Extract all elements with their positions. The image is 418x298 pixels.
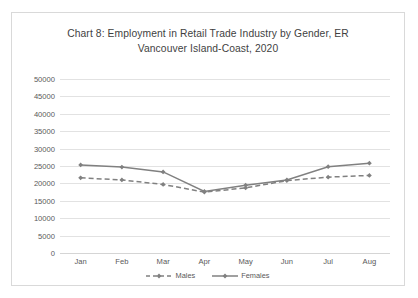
y-axis-tick-label: 35000: [34, 127, 55, 136]
x-axis-tick-label: Mar: [157, 257, 170, 266]
y-axis-tick-label: 0: [51, 249, 55, 258]
x-axis-tick-label: Apr: [198, 257, 210, 266]
data-point-marker: [119, 178, 124, 183]
y-axis-tick-label: 50000: [34, 75, 55, 84]
data-point-marker: [243, 183, 248, 188]
data-point-marker: [78, 175, 83, 180]
y-axis-tick-label: 5000: [38, 231, 55, 240]
chart-container: Chart 8: Employment in Retail Trade Indu…: [11, 12, 405, 286]
x-axis-tick-label: Aug: [363, 257, 377, 266]
x-axis-tick-label: May: [238, 257, 252, 266]
data-point-marker: [119, 165, 124, 170]
data-point-marker: [284, 178, 289, 183]
data-point-marker: [161, 170, 166, 175]
chart-title: Chart 8: Employment in Retail Trade Indu…: [12, 27, 404, 56]
y-axis-tick-label: 45000: [34, 92, 55, 101]
series-line-males: [81, 175, 370, 192]
chart-title-line-2: Vancouver Island-Coast, 2020: [12, 42, 404, 57]
legend-label: Males: [175, 271, 195, 280]
y-axis-tick-label: 10000: [34, 214, 55, 223]
data-point-marker: [367, 161, 372, 166]
gridline: [60, 253, 390, 254]
chart-legend: MalesFemales: [12, 271, 404, 280]
y-axis-tick-label: 40000: [34, 109, 55, 118]
x-axis-tick-label: Jul: [323, 257, 333, 266]
chart-title-line-1: Chart 8: Employment in Retail Trade Indu…: [12, 27, 404, 42]
legend-swatch-females: [212, 272, 238, 280]
data-point-marker: [202, 189, 207, 194]
y-axis-tick-label: 15000: [34, 196, 55, 205]
y-axis-tick-label: 30000: [34, 144, 55, 153]
data-point-marker: [367, 173, 372, 178]
data-point-marker: [326, 175, 331, 180]
legend-item-females[interactable]: Females: [212, 271, 269, 280]
x-axis-tick-label: Jan: [75, 257, 87, 266]
data-point-marker: [326, 164, 331, 169]
x-axis-tick-label: Feb: [115, 257, 128, 266]
y-axis-tick-label: 25000: [34, 162, 55, 171]
data-point-marker: [78, 163, 83, 168]
legend-item-males[interactable]: Males: [146, 271, 195, 280]
x-axis-tick-label: Jun: [281, 257, 293, 266]
y-axis-tick-label: 20000: [34, 179, 55, 188]
series-lines: [60, 79, 390, 253]
data-point-marker: [161, 182, 166, 187]
legend-swatch-males: [146, 272, 172, 280]
plot-area: 0500010000150002000025000300003500040000…: [60, 79, 390, 253]
legend-label: Females: [241, 271, 269, 280]
